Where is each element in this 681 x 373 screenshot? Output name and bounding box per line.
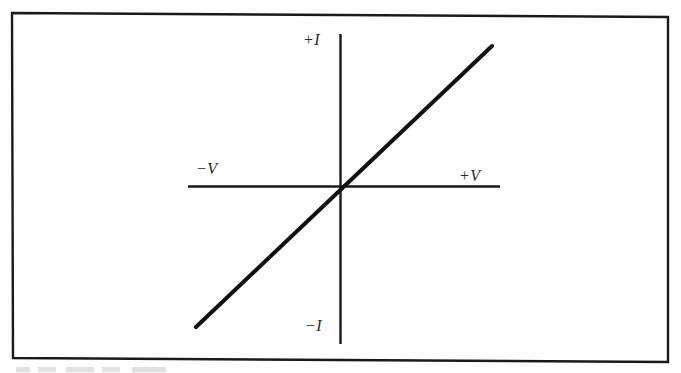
axis-label-negative-voltage: −V — [196, 161, 218, 177]
axis-label-negative-current: −I — [305, 318, 322, 334]
scan-edge-artifact — [16, 367, 196, 372]
figure-container: +I −I −V +V — [0, 0, 681, 373]
axis-label-positive-current: +I — [303, 32, 320, 48]
axis-label-positive-voltage: +V — [459, 168, 481, 184]
iv-characteristic-graph — [0, 0, 681, 373]
